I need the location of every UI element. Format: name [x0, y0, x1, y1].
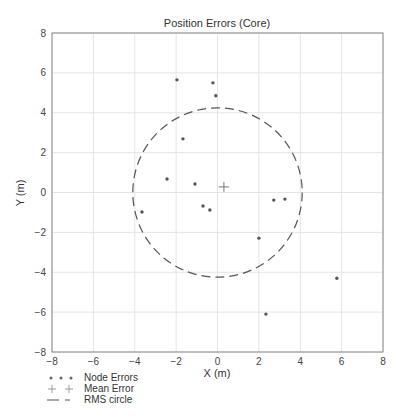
x-axis-ticks: −8−6−4−202468 [46, 356, 386, 367]
x-tick-label: −6 [88, 356, 100, 367]
data-point [165, 177, 168, 180]
x-tick-label: 0 [215, 356, 221, 367]
x-tick-label: −2 [170, 356, 182, 367]
data-point [272, 198, 275, 201]
data-point [257, 236, 260, 239]
grid-lines [52, 33, 383, 352]
scatter-chart: Position Errors (Core) −8−6−4−202468 −8−… [0, 0, 404, 419]
y-tick-label: 2 [40, 147, 46, 158]
x-tick-label: 2 [256, 356, 262, 367]
data-point [264, 312, 267, 315]
data-point [193, 182, 196, 185]
y-tick-label: −6 [35, 307, 47, 318]
x-tick-label: −8 [46, 356, 58, 367]
y-tick-label: 0 [40, 187, 46, 198]
x-tick-label: −4 [129, 356, 141, 367]
y-tick-label: −8 [35, 347, 47, 358]
mean-error-marker [219, 182, 229, 192]
data-point [214, 94, 217, 97]
data-point [140, 210, 143, 213]
x-axis-label: X (m) [204, 367, 231, 379]
legend-item-rms-circle: RMS circle [46, 394, 138, 405]
data-point [208, 208, 211, 211]
x-tick-label: 8 [380, 356, 386, 367]
y-axis-ticks: −8−6−4−202468 [35, 28, 47, 358]
y-tick-label: 4 [40, 107, 46, 118]
y-tick-label: −2 [35, 227, 47, 238]
legend-label: Node Errors [84, 372, 138, 383]
y-tick-label: 8 [40, 28, 46, 39]
data-point [335, 277, 338, 280]
legend-item-node-errors: Node Errors [46, 372, 138, 383]
y-axis-label: Y (m) [14, 180, 26, 207]
legend-item-mean-error: Mean Error [46, 383, 138, 394]
x-tick-label: 4 [297, 356, 303, 367]
data-point [175, 78, 178, 81]
node-error-points [140, 78, 338, 316]
data-point [201, 204, 204, 207]
legend: Node Errors Mean Error RMS circle [46, 372, 138, 405]
y-tick-label: 6 [40, 67, 46, 78]
chart-title: Position Errors (Core) [164, 17, 270, 29]
dot-marker-icon [46, 372, 76, 383]
legend-label: RMS circle [84, 394, 132, 405]
mean-plus-icon [219, 182, 229, 192]
dashed-line-icon [46, 394, 76, 405]
plus-marker-icon [46, 383, 76, 394]
data-point [181, 137, 184, 140]
data-point [211, 81, 214, 84]
data-point [283, 197, 286, 200]
y-tick-label: −4 [35, 267, 47, 278]
legend-label: Mean Error [84, 383, 134, 394]
x-tick-label: 6 [339, 356, 345, 367]
